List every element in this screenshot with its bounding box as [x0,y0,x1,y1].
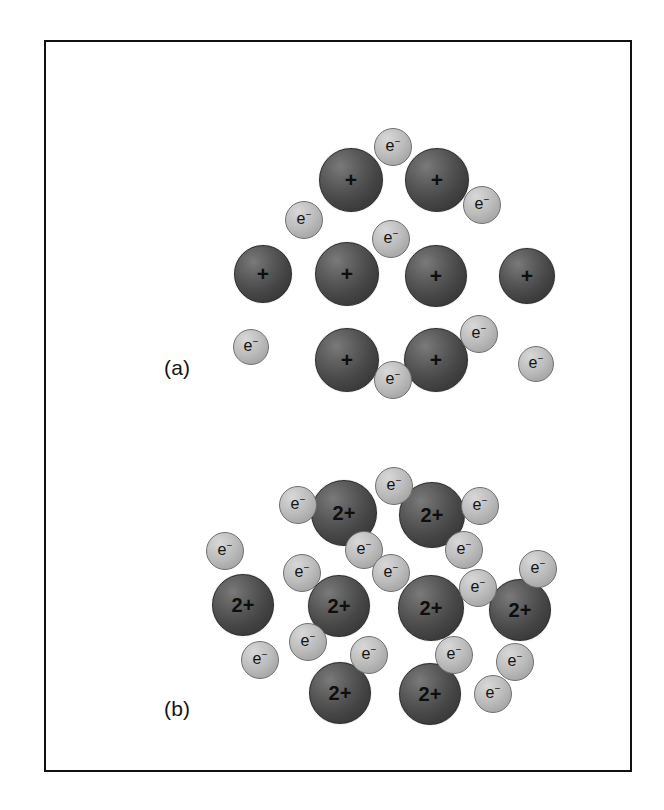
electron-b16: e− [474,675,512,713]
electron-b2: e− [375,467,413,505]
panel-b-label: (b) [164,697,190,721]
electron-superscript: − [393,562,399,573]
electron-symbol: e [485,684,494,701]
electron-symbol: e [386,476,395,493]
electron-charge-label: e− [361,646,376,662]
cation-charge-label: 2+ [328,596,351,616]
electron-symbol: e [446,645,455,662]
electron-charge-label: e− [386,477,401,493]
electron-superscript: − [480,577,486,588]
electron-b10: e− [459,569,497,607]
electron-b5: e− [445,531,483,569]
electron-superscript: − [304,562,310,573]
cation-b3: 2+ [212,574,274,636]
electron-symbol: e [530,559,539,576]
electron-charge-label: e− [456,541,471,557]
electron-charge-label: e− [485,685,500,701]
electron-charge-label: e− [290,496,305,512]
electron-symbol: e [356,540,365,557]
electron-superscript: − [300,494,306,505]
electron-symbol: e [300,632,309,649]
electron-symbol: e [294,563,303,580]
electron-superscript: − [466,539,472,550]
electron-charge-label: e− [356,541,371,557]
electron-symbol: e [361,645,370,662]
electron-b14: e− [435,636,473,674]
electron-charge-label: e− [507,653,522,669]
panel-b: (b)2+2+2+2+2+2+2+2+e−e−e−e−e−e−e−e−e−e−e… [46,42,630,770]
electron-superscript: − [396,475,402,486]
electron-charge-label: e− [294,564,309,580]
electron-b9: e− [519,550,557,588]
electron-b3: e− [461,487,499,525]
electron-charge-label: e− [383,564,398,580]
figure-frame: (a)++++++++e−e−e−e−e−e−e−e− (b)2+2+2+2+2… [44,40,632,772]
cation-charge-label: 2+ [419,684,442,704]
electron-superscript: − [482,495,488,506]
electron-superscript: − [227,540,233,551]
electron-superscript: − [310,631,316,642]
electron-b13: e− [350,636,388,674]
electron-charge-label: e− [300,633,315,649]
cation-charge-label: 2+ [421,505,444,525]
cation-charge-label: 2+ [420,598,443,618]
electron-charge-label: e− [472,497,487,513]
electron-charge-label: e− [470,579,485,595]
electron-superscript: − [366,539,372,550]
electron-symbol: e [456,540,465,557]
electron-b4: e− [206,532,244,570]
cation-charge-label: 2+ [232,595,255,615]
electron-b12: e− [241,641,279,679]
electron-b11: e− [289,623,327,661]
electron-b1: e− [279,486,317,524]
electron-superscript: − [517,651,523,662]
electron-symbol: e [472,496,481,513]
electron-symbol: e [470,578,479,595]
electron-symbol: e [290,495,299,512]
electron-b8: e− [372,554,410,592]
cation-charge-label: 2+ [333,503,356,523]
cation-charge-label: 2+ [329,683,352,703]
cation-b5: 2+ [398,575,464,641]
cation-b6: 2+ [489,579,551,641]
electron-superscript: − [262,649,268,660]
electron-superscript: − [495,683,501,694]
electron-charge-label: e− [217,542,232,558]
electron-charge-label: e− [446,646,461,662]
electron-b6: e− [283,554,321,592]
electron-superscript: − [540,558,546,569]
electron-charge-label: e− [252,651,267,667]
electron-symbol: e [252,650,261,667]
electron-charge-label: e− [530,560,545,576]
electron-symbol: e [383,563,392,580]
electron-b15: e− [496,643,534,681]
electron-superscript: − [456,644,462,655]
electron-superscript: − [371,644,377,655]
electron-symbol: e [507,652,516,669]
cation-charge-label: 2+ [509,600,532,620]
figure-root: (a)++++++++e−e−e−e−e−e−e−e− (b)2+2+2+2+2… [0,0,664,810]
electron-symbol: e [217,541,226,558]
